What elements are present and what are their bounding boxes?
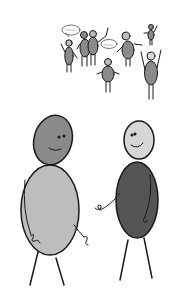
crowd-figure [144,25,157,46]
left-figure-leg [56,258,64,285]
right-figure [95,121,158,280]
right-figure-body [116,162,158,238]
crowd-figure [141,50,161,99]
left-figure-hand [84,236,88,245]
speech-bubble-2 [101,40,117,49]
crowd-group [61,25,161,100]
left-figure [21,111,88,285]
right-figure-leg [120,240,128,280]
right-figure-leg [144,238,152,278]
doodle-svg [0,0,175,306]
speech-bubble-1 [62,25,80,37]
left-figure-body [21,165,79,255]
right-figure-hand [95,205,101,210]
crowd-figure [61,40,77,72]
right-figure-head [124,121,154,159]
left-figure-leg [30,252,38,285]
crowd-figure [97,59,119,93]
illustration [0,0,175,306]
left-figure-head [28,111,78,169]
crowd-figure [117,32,142,66]
